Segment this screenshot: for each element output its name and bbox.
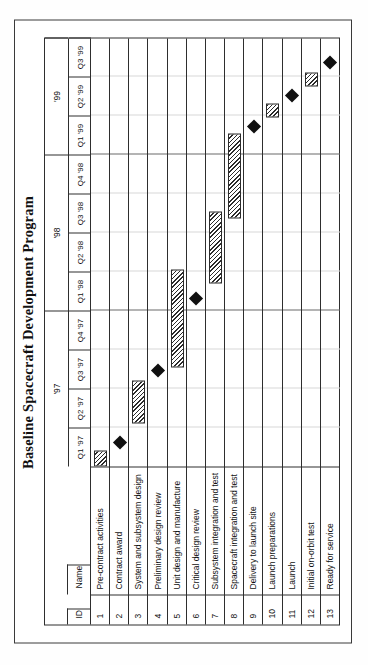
gridline [283, 192, 301, 193]
table-row[interactable]: 10Launch preparations [263, 38, 282, 624]
gantt-milestone-diamond-icon[interactable] [323, 55, 337, 69]
timeline-quarter-4: Q4 '97 [69, 310, 91, 349]
table-row[interactable]: 1Pre-contract activities [91, 38, 110, 624]
gantt-table: ID Name '97'98'99 Q1 '97Q2 '97Q3 '97Q4 '… [44, 37, 340, 625]
gantt-milestone-diamond-icon[interactable] [189, 291, 203, 305]
table-row[interactable]: 3System and subsystem design [129, 38, 148, 624]
gridline [148, 270, 166, 271]
table-row[interactable]: 6Critical design review [187, 38, 206, 624]
row-id: 13 [321, 594, 340, 624]
gridline [129, 114, 147, 115]
table-row[interactable]: 11Launch [283, 38, 302, 624]
gridline [110, 231, 128, 232]
row-id: 3 [129, 594, 147, 624]
gridline [283, 153, 301, 154]
gridline [283, 114, 301, 115]
row-timeline-cell [263, 38, 281, 466]
gridline [168, 231, 186, 232]
gridline [283, 309, 301, 310]
gridline [148, 309, 166, 310]
gridline [168, 114, 186, 115]
gridline [321, 270, 340, 271]
row-task-name: Ready for service [321, 466, 340, 594]
gantt-bar[interactable] [228, 133, 241, 219]
gantt-bar[interactable] [305, 72, 318, 86]
table-row[interactable]: 4Preliminary design review [148, 38, 167, 624]
gantt-bar[interactable] [132, 380, 145, 423]
timeline-year-row: '97'98'99 [45, 38, 68, 466]
gridline [302, 387, 320, 388]
gridline [129, 231, 147, 232]
gridline [283, 75, 301, 76]
row-timeline-cell [129, 38, 147, 466]
gridline [148, 153, 166, 154]
gridline [263, 309, 281, 310]
gantt-bar[interactable] [94, 450, 107, 466]
gridline [321, 153, 340, 154]
row-id: 7 [206, 594, 224, 624]
gridline [244, 114, 262, 115]
row-task-name: Subsystem integration and test [206, 466, 224, 594]
gridline [129, 270, 147, 271]
gridline [91, 426, 109, 427]
row-timeline-cell [187, 38, 205, 466]
gridline [263, 153, 281, 154]
gantt-milestone-diamond-icon[interactable] [285, 88, 299, 102]
gantt-bar[interactable] [266, 103, 279, 117]
row-task-name: Delivery to launch site [244, 466, 262, 594]
table-row[interactable]: 9Delivery to launch site [244, 38, 263, 624]
gridline [187, 387, 205, 388]
gridline [129, 309, 147, 310]
gantt-milestone-diamond-icon[interactable] [151, 363, 165, 377]
table-body: 1Pre-contract activities2Contract award3… [91, 38, 339, 624]
gridline [302, 309, 320, 310]
gridline [263, 270, 281, 271]
timeline-quarter-7: Q3 '98 [69, 193, 91, 232]
gridline [91, 114, 109, 115]
gantt-figure: Baseline Spacecraft Development Program … [0, 0, 368, 665]
row-timeline-cell [168, 38, 186, 466]
gridline [302, 426, 320, 427]
row-task-name: Launch [283, 466, 301, 594]
timeline-quarter-2: Q2 '97 [69, 388, 91, 427]
gridline [302, 231, 320, 232]
gridline [225, 387, 243, 388]
table-row[interactable]: 12Initial on-orbit test [302, 38, 321, 624]
table-row[interactable]: 13Ready for service [321, 38, 340, 624]
page-title: Baseline Spacecraft Development Program [20, 21, 37, 643]
table-row[interactable]: 8Spacecraft integration and test [225, 38, 244, 624]
gantt-bar[interactable] [209, 211, 222, 283]
gridline [187, 309, 205, 310]
timeline-year-3: '99 [45, 37, 68, 154]
gridline [91, 309, 109, 310]
gridline [321, 231, 340, 232]
table-row[interactable]: 2Contract award [110, 38, 129, 624]
row-timeline-cell [302, 38, 320, 466]
table-header: ID Name '97'98'99 Q1 '97Q2 '97Q3 '97Q4 '… [45, 38, 91, 624]
gridline [168, 153, 186, 154]
gridline [244, 270, 262, 271]
column-header-id: ID [67, 609, 90, 625]
table-row[interactable]: 5Unit design and manufacture [168, 38, 187, 624]
gridline [283, 387, 301, 388]
gridline [91, 387, 109, 388]
row-task-name: Pre-contract activities [91, 466, 109, 594]
gridline [187, 270, 205, 271]
gantt-bar[interactable] [171, 269, 184, 367]
gridline [168, 426, 186, 427]
table-row[interactable]: 7Subsystem integration and test [206, 38, 225, 624]
timeline-quarter-11: Q3 '99 [69, 37, 91, 76]
gridline [302, 114, 320, 115]
row-timeline-cell [225, 38, 243, 466]
gridline [225, 309, 243, 310]
gridline [225, 348, 243, 349]
gridline [283, 231, 301, 232]
timeline-quarter-3: Q3 '97 [69, 349, 91, 388]
gantt-milestone-diamond-icon[interactable] [113, 435, 127, 449]
gridline [91, 231, 109, 232]
gridline [110, 75, 128, 76]
gridline [321, 348, 340, 349]
gridline [263, 348, 281, 349]
gridline [225, 270, 243, 271]
gantt-milestone-diamond-icon[interactable] [247, 119, 261, 133]
